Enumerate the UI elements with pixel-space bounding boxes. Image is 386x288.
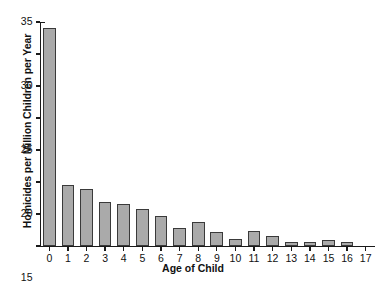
bar: [99, 202, 112, 246]
bar: [304, 242, 317, 246]
y-tick-mark: 20: [36, 117, 41, 118]
bar: [43, 28, 56, 246]
x-tick-mark: [291, 246, 292, 251]
bar: [210, 232, 223, 246]
bar: [173, 228, 186, 246]
x-tick-mark: [67, 246, 68, 251]
x-tick-mark: [328, 246, 329, 251]
plot-area: 05101520253035 0123456789101112131415161…: [40, 22, 375, 246]
x-tick-mark: [346, 246, 347, 251]
x-tick-mark: [142, 246, 143, 251]
x-tick-mark: [216, 246, 217, 251]
bar: [285, 242, 298, 246]
x-tick-mark: [49, 246, 50, 251]
x-axis-title: Age of Child: [0, 262, 386, 274]
x-tick-mark: [123, 246, 124, 251]
x-tick-mark: [365, 246, 366, 251]
bar: [266, 236, 279, 246]
bar: [155, 216, 168, 246]
x-tick-mark: [272, 246, 273, 251]
bar: [248, 231, 261, 246]
x-tick-mark: [235, 246, 236, 251]
bar: [80, 189, 93, 246]
bar: [341, 242, 354, 246]
bar: [322, 240, 335, 246]
x-tick-mark: [253, 246, 254, 251]
y-tick-mark: 5: [36, 213, 41, 214]
x-tick-mark: [160, 246, 161, 251]
y-tick-mark: 10: [36, 181, 41, 182]
bar: [192, 222, 205, 246]
x-tick-mark: [179, 246, 180, 251]
y-tick-label: 35: [21, 15, 33, 27]
x-tick-mark: [104, 246, 105, 251]
y-tick-mark: 25: [36, 85, 41, 86]
y-tick-mark: 30: [36, 53, 41, 54]
x-tick-mark: [309, 246, 310, 251]
bar: [229, 239, 242, 246]
bar-chart-figure: Homicides per Million Children per Year …: [0, 0, 386, 288]
x-tick-mark: [86, 246, 87, 251]
y-tick-mark: 15: [36, 149, 41, 150]
y-tick-label: 20: [21, 207, 33, 219]
y-tick-mark: 0: [36, 245, 41, 246]
y-tick-label: 30: [21, 79, 33, 91]
bar: [62, 185, 75, 246]
y-tick-label: 25: [21, 143, 33, 155]
bar: [136, 209, 149, 246]
y-axis-top-cap: [40, 22, 45, 23]
x-tick-mark: [198, 246, 199, 251]
x-axis-line: [40, 246, 375, 247]
bar: [117, 204, 130, 246]
y-axis-line: [40, 22, 41, 246]
